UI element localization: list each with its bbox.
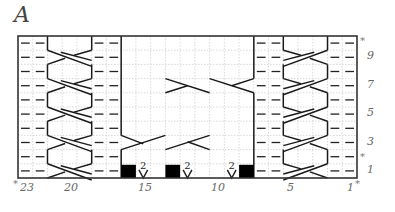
row-number: 5 [367,106,374,119]
repeat-marker-bottom-left: * [13,178,18,189]
repeat-marker-top-right: * [360,35,365,46]
increase-v-icon [227,170,236,178]
repeat-marker-bottom-right: * [355,178,360,189]
no-stitch-square [121,165,136,178]
row-number: 7 [367,78,374,91]
row-1-symbols: 222 [121,160,254,178]
column-number: 23 [20,181,34,194]
column-number: 20 [64,181,78,194]
row-number: 9 [367,49,374,62]
row-number: 1 [367,163,374,176]
increase-count: 2 [229,160,235,171]
column-number: 10 [211,181,225,194]
increase-count: 2 [184,160,190,171]
no-stitch-square [239,165,254,178]
row-number: 3 [367,135,374,148]
knitting-chart-grid: 222 [0,0,395,212]
column-number: 5 [287,181,294,194]
column-number: 15 [138,181,152,194]
cable-crossings [47,36,327,180]
no-stitch-square [165,165,180,178]
repeat-marker-row3: * [360,151,365,162]
column-number: 1 [347,181,354,194]
increase-count: 2 [140,160,146,171]
increase-v-icon [139,170,148,178]
increase-v-icon [183,170,192,178]
